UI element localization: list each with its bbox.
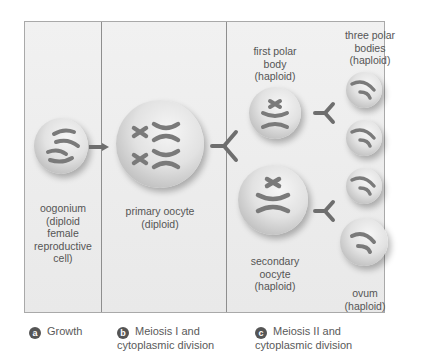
polar-body-chromosome-icon xyxy=(346,72,382,108)
step-badge-b: b xyxy=(117,327,129,339)
stage-divider-2 xyxy=(226,22,227,312)
step-b-label: Meiosis I and cytoplasmic division xyxy=(117,325,214,351)
three-polar-bodies-label: three polar bodies (haploid) xyxy=(335,29,405,67)
oogonium-chromosomes-icon xyxy=(34,118,88,174)
split-arrow-icon xyxy=(315,198,337,224)
first-polar-body-chromosomes-icon xyxy=(249,87,301,139)
ovum-label: ovum (haploid) xyxy=(330,287,400,312)
step-c-label: Meiosis II and cytoplasmic division xyxy=(255,325,352,351)
polar-body-chromosome-icon xyxy=(346,120,382,156)
primary-oocyte-chromosomes-icon xyxy=(116,100,204,188)
step-badge-c: c xyxy=(255,327,267,339)
stage-divider-1 xyxy=(101,22,102,312)
oogonium-label: oogonium (diploid female reproductive ce… xyxy=(28,202,98,265)
step-badge-a: a xyxy=(29,327,41,339)
polar-body-chromosome-icon xyxy=(346,168,382,204)
split-arrow-icon xyxy=(315,100,337,126)
step-b: bMeiosis I and cytoplasmic division xyxy=(117,325,214,352)
step-a-label: Growth xyxy=(47,325,82,337)
first-polar-body-label: first polar body (haploid) xyxy=(240,45,310,83)
step-a: aGrowth xyxy=(29,325,82,339)
step-c: cMeiosis II and cytoplasmic division xyxy=(255,325,352,352)
ovum-chromosome-icon xyxy=(340,218,388,266)
primary-oocyte-label: primary oocyte (diploid) xyxy=(110,205,210,230)
arrow-right-icon xyxy=(89,143,109,151)
secondary-oocyte-chromosomes-icon xyxy=(238,165,308,235)
secondary-oocyte-label: secondary oocyte (haploid) xyxy=(240,255,310,293)
split-arrow-icon xyxy=(212,128,240,164)
